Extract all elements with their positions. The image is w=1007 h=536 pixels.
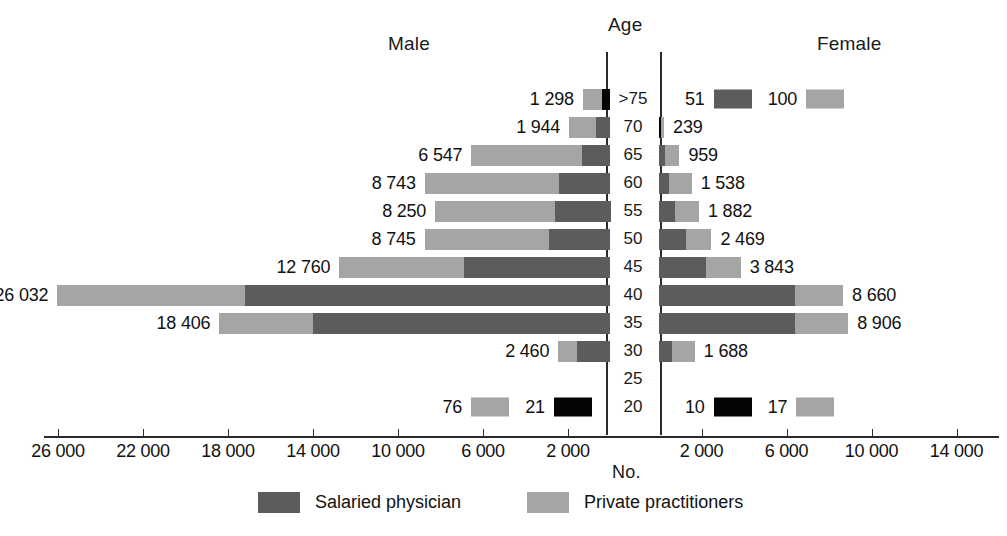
- chart-canvas: Male Female Age No. 26 00022 00018 00014…: [0, 0, 1007, 536]
- female-value-40: 8 660: [852, 285, 896, 306]
- x-tick-left-6000: [483, 429, 484, 437]
- legend-swatch-salaried: [258, 492, 300, 513]
- male-bar-45: [339, 257, 610, 278]
- segment-private: [435, 201, 555, 222]
- x-tick-right-6000: [787, 429, 788, 437]
- inline-value: 100: [768, 89, 797, 110]
- segment-private: [675, 201, 699, 222]
- female-bar-65: [659, 145, 679, 166]
- female-value-45: 3 843: [750, 257, 794, 278]
- legend-item-salaried[interactable]: Salaried physician: [258, 492, 461, 513]
- x-axis-line: [44, 436, 999, 438]
- x-tick-label-left-2000: 2 000: [546, 441, 590, 462]
- x-tick-left-18000: [228, 429, 229, 437]
- female-bar-35: [659, 313, 848, 334]
- age-label-20: 20: [624, 397, 643, 417]
- segment-salaried: [602, 89, 611, 110]
- inline-value: 76: [443, 397, 463, 418]
- female-value-30: 1 688: [704, 341, 748, 362]
- age-label-55: 55: [624, 201, 643, 221]
- age-label-60: 60: [624, 173, 643, 193]
- age-label-65: 65: [624, 145, 643, 165]
- inline-value: 10: [685, 397, 705, 418]
- x-tick-label-left-6000: 6 000: [461, 441, 505, 462]
- segment-salaried: [313, 313, 611, 334]
- segment-salaried: [659, 201, 675, 222]
- male-value-45: 12 760: [276, 257, 330, 278]
- segment-private: [661, 117, 664, 138]
- legend-label-salaried: Salaried physician: [315, 492, 461, 513]
- female-value-70: 239: [673, 117, 702, 138]
- male-bar-55: [435, 201, 610, 222]
- male-value-65: 6 547: [418, 145, 462, 166]
- legend-item-private[interactable]: Private practitioners: [527, 492, 743, 513]
- segment-salaried: [596, 117, 611, 138]
- segment-private: [471, 145, 582, 166]
- legend-label-private: Private practitioners: [584, 492, 743, 513]
- x-tick-left-10000: [398, 429, 399, 437]
- male-bar-35: [219, 313, 610, 334]
- female-bar-70: [659, 117, 664, 138]
- segment-salaried: [559, 173, 610, 194]
- segment-salaried: [245, 285, 611, 306]
- age-axis-title: Age: [608, 14, 642, 36]
- segment-private: [672, 341, 695, 362]
- male-value-35: 18 406: [157, 313, 211, 334]
- male-value-70: 1 944: [516, 117, 560, 138]
- x-tick-right-14000: [957, 429, 958, 437]
- segment-private: [569, 117, 595, 138]
- male-bar-50: [425, 229, 611, 250]
- inline-value: 51: [685, 89, 705, 110]
- inline-swatch-private: [806, 90, 844, 109]
- segment-private: [795, 313, 848, 334]
- age-label-gt75: >75: [619, 89, 648, 109]
- segment-salaried: [549, 229, 611, 250]
- male-bar-40: [57, 285, 610, 306]
- age-label-25: 25: [624, 369, 643, 389]
- x-tick-left-22000: [143, 429, 144, 437]
- inline-swatch-private: [796, 398, 834, 417]
- chart-legend: Salaried physicianPrivate practitioners: [258, 492, 809, 513]
- inline-swatch-black: [714, 398, 752, 417]
- x-tick-label-left-22000: 22 000: [116, 441, 169, 462]
- segment-salaried: [659, 257, 706, 278]
- x-tick-right-10000: [872, 429, 873, 437]
- x-tick-label-left-14000: 14 000: [286, 441, 339, 462]
- inline-swatch-salaried: [714, 90, 752, 109]
- female-bar-55: [659, 201, 699, 222]
- inline-swatch-private: [471, 398, 509, 417]
- female-value-55: 1 882: [708, 201, 752, 222]
- segment-private: [219, 313, 313, 334]
- female-inline-20: 1017: [685, 397, 850, 418]
- age-label-50: 50: [624, 229, 643, 249]
- inline-value: 21: [525, 397, 545, 418]
- male-bar-gt75: [583, 89, 611, 110]
- segment-private: [583, 89, 602, 110]
- x-tick-right-2000: [702, 429, 703, 437]
- female-value-50: 2 469: [720, 229, 764, 250]
- x-tick-label-right-6000: 6 000: [765, 441, 809, 462]
- inline-value: 17: [768, 397, 788, 418]
- segment-private: [795, 285, 843, 306]
- female-bar-60: [659, 173, 692, 194]
- male-inline-20: 7621: [443, 397, 608, 418]
- female-value-35: 8 906: [857, 313, 901, 334]
- female-bar-40: [659, 285, 843, 306]
- male-value-60: 8 743: [372, 173, 416, 194]
- legend-swatch-private: [527, 492, 569, 513]
- male-value-40: 26 032: [0, 285, 48, 306]
- segment-salaried: [577, 341, 610, 362]
- male-bar-30: [558, 341, 610, 362]
- male-value-50: 8 745: [372, 229, 416, 250]
- female-bar-50: [659, 229, 711, 250]
- segment-salaried: [659, 341, 672, 362]
- x-tick-label-right-10000: 10 000: [845, 441, 898, 462]
- segment-salaried: [659, 229, 686, 250]
- segment-private: [558, 341, 577, 362]
- segment-private: [706, 257, 741, 278]
- segment-private: [57, 285, 245, 306]
- x-tick-label-right-2000: 2 000: [680, 441, 724, 462]
- age-label-30: 30: [624, 341, 643, 361]
- segment-salaried: [659, 285, 795, 306]
- male-value-gt75: 1 298: [530, 89, 574, 110]
